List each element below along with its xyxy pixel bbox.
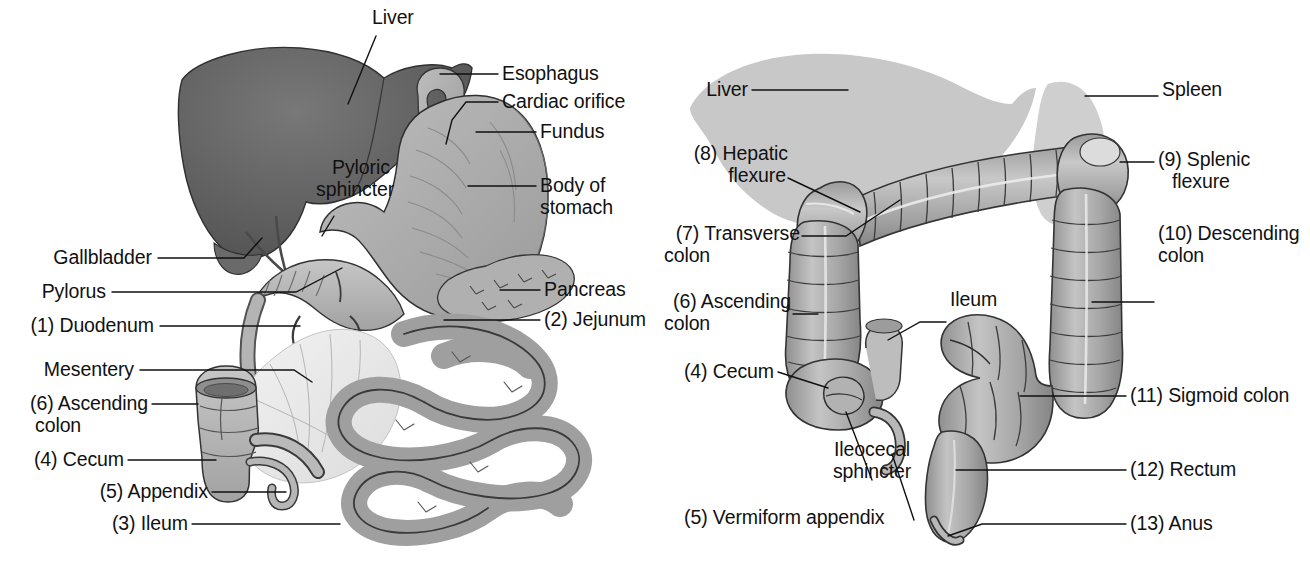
label-cecum: (4) Cecum	[660, 360, 774, 382]
cecum-shape	[786, 359, 883, 430]
descending-colon-shape	[1049, 188, 1122, 418]
label-duodenum: (1) Duodenum	[0, 314, 154, 336]
label-gallbladder: Gallbladder	[0, 246, 152, 268]
label-cardiac-orifice: Cardiac orifice	[502, 90, 625, 112]
label-liver: Liver	[660, 78, 748, 100]
label-rectum: (12) Rectum	[1130, 458, 1236, 480]
label-esophagus: Esophagus	[502, 62, 599, 84]
label-pancreas: Pancreas	[544, 278, 626, 300]
label-vermiform-appendix: (5) Vermiform appendix	[684, 506, 884, 528]
label-ileum: Ileum	[950, 288, 997, 310]
label-mesentery: Mesentery	[0, 358, 134, 380]
label-cecum: (4) Cecum	[0, 448, 124, 470]
label-fundus: Fundus	[540, 120, 604, 142]
label-sigmoid-colon: (11) Sigmoid colon	[1130, 384, 1289, 406]
label-appendix: (5) Appendix	[0, 480, 208, 502]
panel-large-intestine: Liver Spleen (8) Hepatic flexure (9) Spl…	[660, 0, 1310, 564]
label-spleen: Spleen	[1162, 78, 1222, 100]
label-ileum: (3) Ileum	[0, 512, 188, 534]
figure-canvas: Liver Esophagus Cardiac orifice Fundus B…	[0, 0, 1310, 564]
label-anus: (13) Anus	[1130, 512, 1213, 534]
label-liver: Liver	[372, 6, 414, 28]
label-pylorus: Pylorus	[0, 280, 106, 302]
label-jejunum: (2) Jejunum	[544, 308, 646, 330]
panel-stomach-small-intestine: Liver Esophagus Cardiac orifice Fundus B…	[0, 0, 660, 564]
